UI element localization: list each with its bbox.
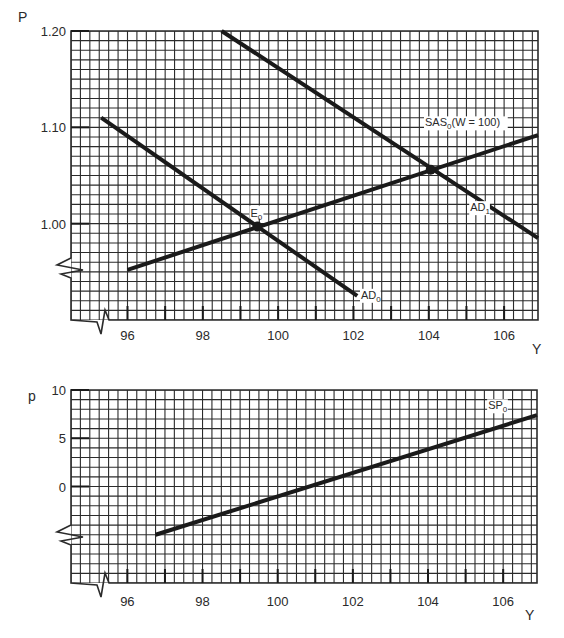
x-tick-label: 102 xyxy=(343,328,365,343)
x-axis-title: Y xyxy=(532,341,542,357)
y-axis-title: p xyxy=(28,388,36,404)
y-tick-label: 5 xyxy=(59,431,66,446)
chart-panel-inflation: 96981001021041061050pYSP0 xyxy=(28,383,537,623)
curve-sp0 xyxy=(156,415,537,535)
x-tick-label: 96 xyxy=(120,328,134,343)
y-tick-label: 1.20 xyxy=(41,24,66,39)
y-tick-label: 10 xyxy=(52,383,66,398)
x-tick-label: 102 xyxy=(342,594,364,609)
y-axis-title: P xyxy=(18,9,27,25)
x-axis-title: Y xyxy=(525,607,535,623)
x-tick-label: 100 xyxy=(267,328,289,343)
y-tick-label: 1.00 xyxy=(41,217,66,232)
chart-canvas: 96981001021041061.201.101.00PYAD0AD1SAS0… xyxy=(0,0,564,638)
equilibrium-point xyxy=(252,222,262,232)
grid xyxy=(71,31,538,320)
x-tick-label: 100 xyxy=(267,594,289,609)
x-tick-label: 104 xyxy=(417,594,439,609)
x-tick-label: 106 xyxy=(493,328,515,343)
y-tick-label: 0 xyxy=(59,480,66,495)
x-tick-label: 98 xyxy=(195,594,209,609)
chart-figure: 96981001021041061.201.101.00PYAD0AD1SAS0… xyxy=(0,0,564,638)
x-tick-label: 96 xyxy=(120,594,134,609)
chart-panel-price-level: 96981001021041061.201.101.00PYAD0AD1SAS0… xyxy=(18,9,542,357)
x-tick-label: 104 xyxy=(418,328,440,343)
y-tick-label: 1.10 xyxy=(41,120,66,135)
x-tick-label: 98 xyxy=(196,328,210,343)
equilibrium-point xyxy=(426,165,436,175)
x-tick-label: 106 xyxy=(492,594,514,609)
